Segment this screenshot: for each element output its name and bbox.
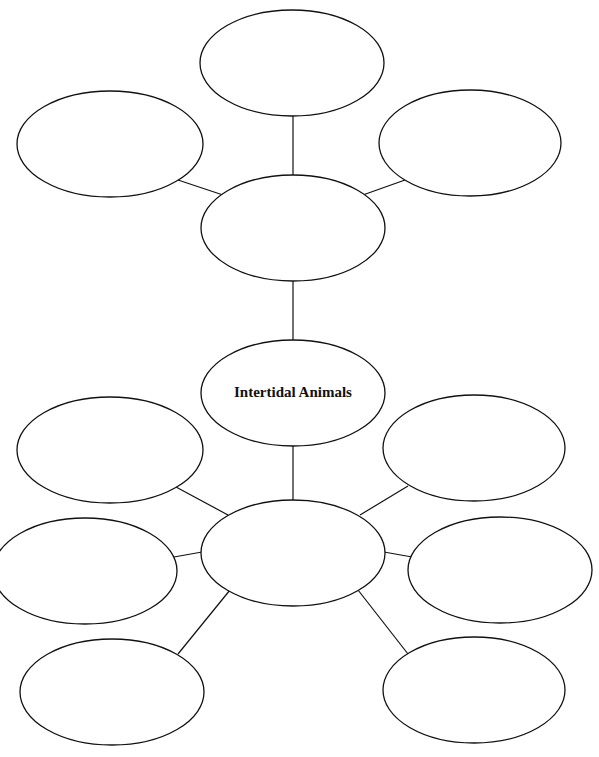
- connector-upper-right-to-upper-hub: [360, 180, 405, 196]
- center-label: Intertidal Animals: [234, 384, 352, 400]
- node-lower-upper-right[interactable]: [383, 395, 565, 501]
- node-lower-mid-left[interactable]: [0, 518, 177, 624]
- connector-lower-mid-left: [174, 552, 202, 557]
- connector-lower-bottom-right: [358, 590, 408, 654]
- node-upper-left[interactable]: [17, 91, 203, 197]
- node-upper-right[interactable]: [379, 90, 561, 196]
- node-lower-bottom-left[interactable]: [20, 639, 204, 745]
- connector-lower-mid-right: [384, 552, 412, 557]
- node-lower-mid-right[interactable]: [408, 517, 592, 623]
- connector-lower-upper-left: [176, 487, 228, 515]
- concept-web-diagram: Intertidal Animals: [0, 0, 599, 757]
- node-upper-hub[interactable]: [201, 175, 385, 281]
- node-lower-hub[interactable]: [201, 500, 385, 606]
- connector-lower-upper-right: [360, 486, 408, 515]
- node-upper-top[interactable]: [200, 10, 384, 116]
- node-lower-bottom-right[interactable]: [383, 637, 565, 743]
- connector-lower-bottom-left: [178, 590, 230, 654]
- connector-upper-left-to-upper-hub: [178, 180, 226, 196]
- node-lower-upper-left[interactable]: [17, 397, 203, 503]
